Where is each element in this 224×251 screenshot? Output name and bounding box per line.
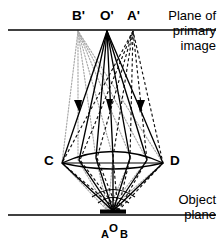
label-a: A: [101, 229, 109, 240]
label-primary-plane-line3: image: [130, 39, 216, 53]
label-object-plane-line1: Object: [140, 193, 216, 207]
label-d: D: [170, 154, 180, 168]
ray-bundle-o-prime: [62, 31, 163, 211]
label-o-prime: O': [100, 9, 114, 23]
ray-direction-arrows: [74, 99, 145, 113]
label-b: B: [120, 229, 128, 240]
label-primary-plane-line2: primary: [130, 24, 216, 38]
label-b-prime: B': [72, 9, 85, 23]
label-object-plane-line2: plane: [140, 208, 216, 222]
optical-ray-diagram: B' O' A' Plane of primary image C D Obje…: [0, 0, 224, 251]
object-bar: [100, 210, 126, 214]
label-c: C: [44, 154, 54, 168]
arrowhead-center: [106, 99, 113, 112]
label-primary-plane-line1: Plane of: [130, 9, 216, 23]
label-o: O: [109, 223, 118, 235]
